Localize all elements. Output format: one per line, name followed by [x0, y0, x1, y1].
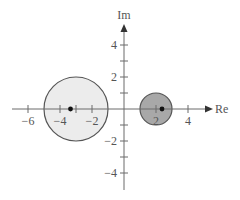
y-tick-label: 4 [111, 38, 117, 52]
x-tick-label: −4 [54, 114, 67, 128]
y-tick-label: −2 [104, 134, 117, 148]
y-tick-label: 2 [111, 70, 117, 84]
imaginary-axis-label: Im [117, 8, 131, 22]
real-axis-arrow-icon [205, 106, 213, 113]
y-tick-label: −4 [104, 166, 117, 180]
imaginary-axis-arrow-icon [121, 24, 128, 32]
x-tick-label: −2 [86, 114, 99, 128]
complex-plane-diagram: −6 −4 −2 2 4 4 2 −2 −4 Im Re [0, 0, 240, 200]
left-point [68, 107, 73, 112]
right-point [160, 107, 165, 112]
x-tick-label: −6 [22, 114, 35, 128]
x-tick-label: 2 [153, 114, 159, 128]
x-tick-label: 4 [185, 114, 191, 128]
real-axis-label: Re [215, 102, 228, 116]
